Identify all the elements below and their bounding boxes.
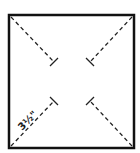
pinwheel-diagram: 3½" xyxy=(0,0,140,153)
cut-line-top-right xyxy=(86,17,132,66)
cut-line-top-left xyxy=(11,17,58,66)
cut-line-bottom-right xyxy=(86,97,132,146)
